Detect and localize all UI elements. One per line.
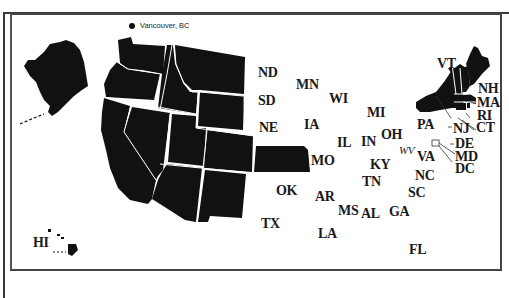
label-dc[interactable]: DC	[455, 162, 475, 176]
label-nh[interactable]: NH	[478, 82, 498, 96]
state-me[interactable]	[466, 46, 490, 86]
label-mn[interactable]: MN	[296, 78, 319, 92]
label-wv[interactable]: WV	[399, 145, 414, 156]
state-ks[interactable]	[254, 146, 310, 172]
label-ms[interactable]: MS	[338, 204, 358, 218]
label-vt[interactable]: VT	[437, 57, 456, 71]
label-ar[interactable]: AR	[315, 190, 335, 204]
label-il[interactable]: IL	[337, 136, 351, 150]
label-pa[interactable]: PA	[417, 118, 434, 132]
label-ct[interactable]: CT	[476, 121, 495, 135]
label-al[interactable]: AL	[361, 207, 380, 221]
city-marker-icon	[129, 23, 135, 29]
label-ga[interactable]: GA	[389, 205, 409, 219]
city-label-vancouver: Vancouver, BC	[140, 21, 189, 30]
label-wi[interactable]: WI	[329, 92, 348, 106]
label-va[interactable]: VA	[417, 150, 435, 164]
label-ok[interactable]: OK	[276, 184, 297, 198]
label-tx[interactable]: TX	[261, 217, 280, 231]
label-ky[interactable]: KY	[370, 158, 390, 172]
state-hi[interactable]	[48, 229, 78, 256]
label-nj[interactable]: NJ	[453, 122, 470, 136]
state-ri[interactable]	[467, 103, 470, 108]
label-hi[interactable]: HI	[33, 236, 49, 250]
label-ne[interactable]: NE	[259, 121, 278, 135]
label-nc[interactable]: NC	[415, 169, 435, 183]
label-sd[interactable]: SD	[258, 94, 275, 108]
label-fl[interactable]: FL	[409, 243, 426, 257]
label-nd[interactable]: ND	[258, 66, 278, 80]
label-oh[interactable]: OH	[381, 128, 402, 142]
dc-box	[432, 140, 439, 146]
label-la[interactable]: LA	[318, 227, 337, 241]
state-nm[interactable]	[198, 170, 246, 222]
state-wy[interactable]	[198, 92, 244, 130]
label-mo[interactable]: MO	[311, 154, 335, 168]
label-in[interactable]: IN	[361, 135, 376, 149]
label-mi[interactable]: MI	[367, 106, 385, 120]
label-ia[interactable]: IA	[304, 118, 319, 132]
state-ak[interactable]	[20, 40, 88, 124]
label-sc[interactable]: SC	[408, 186, 425, 200]
state-co[interactable]	[204, 130, 253, 172]
state-ct[interactable]	[456, 103, 466, 110]
label-tn[interactable]: TN	[362, 175, 381, 189]
